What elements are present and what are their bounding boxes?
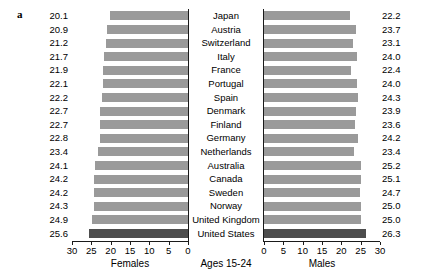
right-tick-label: 30 — [368, 245, 392, 256]
female-bar-track — [72, 11, 188, 20]
female-bar-track — [72, 66, 188, 75]
female-bar-track — [72, 161, 188, 170]
male-bar — [264, 215, 361, 224]
male-bar — [264, 93, 358, 102]
female-bar — [89, 229, 188, 238]
male-value-label: 26.3 — [382, 227, 401, 241]
male-bar-track — [264, 66, 380, 75]
left-tick-label: 0 — [176, 245, 200, 256]
female-value-label: 23.4 — [28, 145, 68, 159]
male-value-label: 24.2 — [382, 131, 401, 145]
male-bar-track — [264, 79, 380, 88]
left-axis-vertical-line — [188, 9, 189, 242]
male-value-label: 24.3 — [382, 91, 401, 105]
female-bar-track — [72, 25, 188, 34]
female-bar-track — [72, 147, 188, 156]
female-bar — [106, 39, 188, 48]
female-value-label: 24.3 — [28, 199, 68, 213]
female-bar — [94, 188, 188, 197]
female-value-label: 24.1 — [28, 159, 68, 173]
female-bar-track — [72, 52, 188, 61]
male-bar-track — [264, 175, 380, 184]
bar-row: 24.9United Kingdom25.0 — [0, 213, 442, 227]
female-bar-track — [72, 93, 188, 102]
right-axis-title: Males — [262, 258, 382, 269]
male-bar-track — [264, 134, 380, 143]
bar-row: 20.9Austria23.7 — [0, 23, 442, 37]
male-bar — [264, 39, 353, 48]
female-bar-track — [72, 229, 188, 238]
female-value-label: 22.8 — [28, 131, 68, 145]
female-value-label: 22.2 — [28, 91, 68, 105]
male-bar-track — [264, 229, 380, 238]
male-bar-track — [264, 161, 380, 170]
country-label: Norway — [190, 199, 262, 213]
bar-row: 22.7Finland23.6 — [0, 118, 442, 132]
female-bar — [98, 147, 188, 156]
male-bar — [264, 66, 351, 75]
male-bar-track — [264, 107, 380, 116]
bar-row: 22.7Denmark23.9 — [0, 104, 442, 118]
male-value-label: 25.2 — [382, 159, 401, 173]
male-value-label: 25.0 — [382, 199, 401, 213]
female-bar-track — [72, 107, 188, 116]
left-axis-title: Females — [70, 258, 190, 269]
male-value-label: 23.4 — [382, 145, 401, 159]
male-bar — [264, 11, 350, 20]
male-bar — [264, 120, 355, 129]
bar-row: 23.4Netherlands23.4 — [0, 145, 442, 159]
male-value-label: 24.0 — [382, 77, 401, 91]
age-group-label: Ages 15-24 — [186, 258, 266, 269]
male-bar-track — [264, 188, 380, 197]
female-bar — [104, 52, 188, 61]
male-value-label: 23.1 — [382, 36, 401, 50]
country-label: United States — [190, 227, 262, 241]
female-bar — [103, 66, 188, 75]
bar-row: 24.3Norway25.0 — [0, 199, 442, 213]
male-value-label: 23.9 — [382, 104, 401, 118]
male-value-label: 25.0 — [382, 213, 401, 227]
bar-row: 24.2Sweden24.7 — [0, 186, 442, 200]
female-bar-track — [72, 175, 188, 184]
female-bar — [107, 25, 188, 34]
male-bar — [264, 79, 357, 88]
female-value-label: 21.2 — [28, 36, 68, 50]
female-value-label: 21.9 — [28, 63, 68, 77]
chart-figure: a 20.1Japan22.220.9Austria23.721.2Switze… — [0, 0, 442, 279]
right-axis-vertical-line — [263, 9, 264, 242]
bar-row: 21.7Italy24.0 — [0, 50, 442, 64]
female-bar-track — [72, 215, 188, 224]
country-label: Germany — [190, 131, 262, 145]
male-bar — [264, 25, 356, 34]
male-bar-track — [264, 25, 380, 34]
female-bar — [102, 93, 188, 102]
country-label: Italy — [190, 50, 262, 64]
bar-row: 21.2Switzerland23.1 — [0, 36, 442, 50]
male-bar — [264, 52, 357, 61]
country-label: Sweden — [190, 186, 262, 200]
female-bar — [110, 11, 188, 20]
female-bar — [95, 161, 188, 170]
male-bar-track — [264, 147, 380, 156]
female-bar — [94, 202, 188, 211]
country-label: Switzerland — [190, 36, 262, 50]
male-bar-track — [264, 202, 380, 211]
female-bar — [103, 79, 188, 88]
male-bar-track — [264, 93, 380, 102]
country-label: Netherlands — [190, 145, 262, 159]
male-bar-track — [264, 39, 380, 48]
country-label: Australia — [190, 159, 262, 173]
country-label: United Kingdom — [190, 213, 262, 227]
country-label: France — [190, 63, 262, 77]
female-value-label: 25.6 — [28, 227, 68, 241]
male-bar — [264, 147, 354, 156]
bar-row: 25.6United States26.3 — [0, 227, 442, 241]
bar-row: 24.2Canada25.1 — [0, 172, 442, 186]
male-bar — [264, 175, 361, 184]
female-bar — [100, 134, 188, 143]
country-label: Portugal — [190, 77, 262, 91]
female-bar-track — [72, 120, 188, 129]
male-bar — [264, 161, 361, 170]
male-bar-track — [264, 120, 380, 129]
male-value-label: 24.7 — [382, 186, 401, 200]
